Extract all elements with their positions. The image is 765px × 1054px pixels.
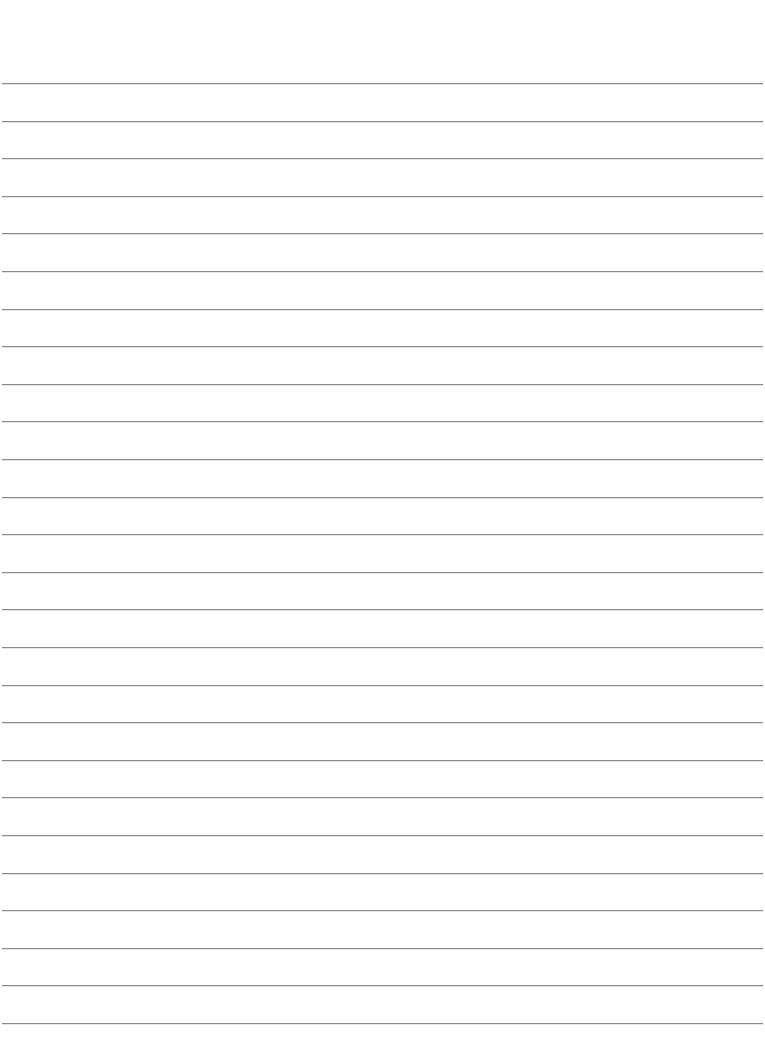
ruled-line bbox=[2, 459, 763, 460]
ruled-line bbox=[2, 196, 763, 197]
ruled-line bbox=[2, 121, 763, 122]
lined-paper-page bbox=[0, 0, 765, 1054]
ruled-line bbox=[2, 797, 763, 798]
ruled-line bbox=[2, 309, 763, 310]
ruled-line bbox=[2, 722, 763, 723]
ruled-line bbox=[2, 760, 763, 761]
ruled-line bbox=[2, 910, 763, 911]
ruled-line bbox=[2, 609, 763, 610]
ruled-line bbox=[2, 158, 763, 159]
ruled-line bbox=[2, 1023, 763, 1024]
ruled-line bbox=[2, 384, 763, 385]
ruled-line bbox=[2, 985, 763, 986]
ruled-line bbox=[2, 497, 763, 498]
ruled-line bbox=[2, 233, 763, 234]
ruled-line bbox=[2, 346, 763, 347]
ruled-line bbox=[2, 534, 763, 535]
ruled-line bbox=[2, 873, 763, 874]
ruled-line bbox=[2, 421, 763, 422]
ruled-line bbox=[2, 685, 763, 686]
ruled-line bbox=[2, 271, 763, 272]
ruled-line bbox=[2, 572, 763, 573]
ruled-line bbox=[2, 83, 763, 84]
ruled-line bbox=[2, 647, 763, 648]
ruled-line bbox=[2, 835, 763, 836]
ruled-line bbox=[2, 948, 763, 949]
